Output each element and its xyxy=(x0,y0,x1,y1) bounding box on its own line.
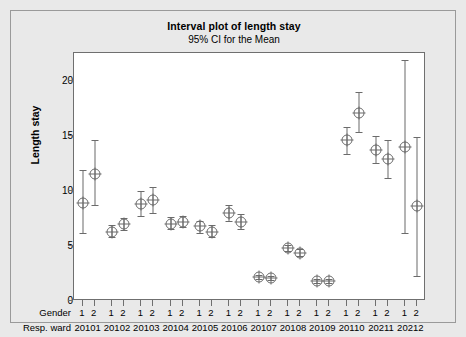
x-tick-mark xyxy=(94,300,95,306)
x-tick-mark xyxy=(416,300,417,306)
gender-tick-label: 2 xyxy=(208,307,213,318)
confidence-interval-cap xyxy=(197,233,204,234)
mean-marker xyxy=(294,247,305,258)
ward-tick-label: 20105 xyxy=(192,322,218,333)
ward-tick-label: 20106 xyxy=(221,322,247,333)
mean-marker xyxy=(148,194,159,205)
confidence-interval-cap xyxy=(355,132,362,133)
gender-tick-label: 2 xyxy=(355,307,360,318)
confidence-interval-cap xyxy=(120,230,127,231)
category-label-rows: Gender Resp. ward 1220101122010212201031… xyxy=(11,307,457,337)
x-tick-mark xyxy=(358,300,359,306)
mean-marker xyxy=(136,199,147,210)
x-tick-mark xyxy=(270,300,271,306)
mean-marker xyxy=(165,218,176,229)
confidence-interval-cap xyxy=(91,205,98,206)
chart-title: Interval plot of length stay xyxy=(11,20,457,33)
gender-tick-label: 2 xyxy=(238,307,243,318)
x-tick-mark xyxy=(111,300,112,306)
mean-marker xyxy=(107,226,118,237)
ward-tick-label: 20108 xyxy=(280,322,306,333)
x-tick-mark xyxy=(170,300,171,306)
mean-marker xyxy=(353,107,364,118)
confidence-interval-cap xyxy=(373,163,380,164)
confidence-interval-cap xyxy=(373,136,380,137)
mean-marker xyxy=(253,271,264,282)
confidence-interval-cap xyxy=(384,140,391,141)
ward-tick-label: 20107 xyxy=(250,322,276,333)
mean-marker xyxy=(89,169,100,180)
mean-marker xyxy=(400,141,411,152)
gender-tick-label: 1 xyxy=(167,307,172,318)
gender-tick-label: 2 xyxy=(150,307,155,318)
gender-tick-label: 1 xyxy=(226,307,231,318)
confidence-interval-cap xyxy=(138,216,145,217)
x-tick-mark xyxy=(375,300,376,306)
gender-tick-label: 2 xyxy=(296,307,301,318)
gender-tick-label: 2 xyxy=(91,307,96,318)
ward-tick-label: 20104 xyxy=(162,322,188,333)
mean-marker xyxy=(177,216,188,227)
x-tick-mark xyxy=(404,300,405,306)
gender-tick-label: 2 xyxy=(179,307,184,318)
confidence-interval-cap xyxy=(138,191,145,192)
mean-marker xyxy=(412,201,423,212)
ward-tick-label: 20212 xyxy=(397,322,423,333)
gender-tick-label: 2 xyxy=(267,307,272,318)
plot-area xyxy=(73,52,425,300)
mean-marker xyxy=(312,276,323,287)
x-tick-mark xyxy=(152,300,153,306)
x-tick-mark xyxy=(258,300,259,306)
gender-tick-label: 1 xyxy=(108,307,113,318)
gender-tick-label: 2 xyxy=(384,307,389,318)
mean-marker xyxy=(206,226,217,237)
mean-marker xyxy=(195,221,206,232)
x-tick-mark xyxy=(211,300,212,306)
confidence-interval-cap xyxy=(355,92,362,93)
title-block: Interval plot of length stay 95% CI for … xyxy=(11,20,457,46)
chart-screenshot: Interval plot of length stay 95% CI for … xyxy=(0,0,466,337)
mean-marker xyxy=(371,144,382,155)
confidence-interval-cap xyxy=(79,233,86,234)
x-tick-mark xyxy=(299,300,300,306)
confidence-interval-cap xyxy=(226,221,233,222)
x-tick-mark xyxy=(287,300,288,306)
chart-subtitle: 95% CI for the Mean xyxy=(11,33,457,46)
mean-marker xyxy=(382,153,393,164)
mean-marker xyxy=(77,197,88,208)
ward-tick-label: 20102 xyxy=(104,322,130,333)
ward-tick-label: 20101 xyxy=(74,322,100,333)
y-axis-title: Length stay xyxy=(29,80,41,190)
confidence-interval-cap xyxy=(91,140,98,141)
x-axis-tick-marks xyxy=(73,300,425,306)
x-tick-mark xyxy=(123,300,124,306)
x-tick-mark xyxy=(316,300,317,306)
gender-tick-label: 1 xyxy=(255,307,260,318)
confidence-interval-cap xyxy=(150,213,157,214)
x-tick-mark xyxy=(140,300,141,306)
confidence-interval-cap xyxy=(150,187,157,188)
mean-marker xyxy=(224,207,235,218)
gender-tick-label: 1 xyxy=(314,307,319,318)
mean-marker xyxy=(118,218,129,229)
confidence-interval-cap xyxy=(402,60,409,61)
x-tick-mark xyxy=(199,300,200,306)
gender-tick-label: 1 xyxy=(196,307,201,318)
mean-marker xyxy=(341,135,352,146)
ward-row-title: Resp. ward xyxy=(13,322,71,333)
gender-row-title: Gender xyxy=(19,307,71,318)
gender-tick-label: 1 xyxy=(284,307,289,318)
x-tick-mark xyxy=(387,300,388,306)
ward-tick-label: 20211 xyxy=(368,322,394,333)
gender-tick-label: 1 xyxy=(138,307,143,318)
confidence-interval-cap xyxy=(384,178,391,179)
x-tick-mark xyxy=(328,300,329,306)
chart-card: Interval plot of length stay 95% CI for … xyxy=(10,10,456,323)
gender-tick-label: 2 xyxy=(414,307,419,318)
confidence-interval-cap xyxy=(343,154,350,155)
gender-tick-label: 1 xyxy=(79,307,84,318)
gender-tick-label: 1 xyxy=(372,307,377,318)
x-tick-mark xyxy=(228,300,229,306)
ward-tick-label: 20110 xyxy=(339,322,365,333)
gender-tick-label: 2 xyxy=(326,307,331,318)
